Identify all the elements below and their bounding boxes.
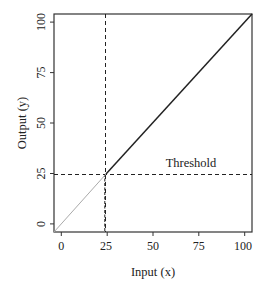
x-axis-ticks <box>61 232 244 236</box>
x-tick-label: 25 <box>100 239 112 253</box>
x-tick-label: 0 <box>58 239 64 253</box>
y-axis-label: Output (y) <box>15 97 29 149</box>
threshold-chart: 0 25 50 75 100 0 25 50 75 100 Input (x) … <box>0 0 266 285</box>
y-tick-label: 0 <box>34 221 48 227</box>
y-tick-label: 25 <box>34 168 48 180</box>
threshold-annotation: Threshold <box>166 156 217 170</box>
x-axis-label: Input (x) <box>131 265 175 279</box>
x-axis-tick-labels: 0 25 50 75 100 <box>58 239 252 253</box>
x-tick-label: 50 <box>147 239 159 253</box>
y-tick-label: 50 <box>34 117 48 129</box>
y-tick-label: 75 <box>34 67 48 79</box>
identity-line-below-threshold <box>54 174 106 232</box>
identity-line-above-threshold <box>106 14 252 174</box>
x-tick-label: 75 <box>193 239 205 253</box>
x-tick-label: 100 <box>234 239 252 253</box>
y-tick-label: 100 <box>34 13 48 31</box>
y-axis-tick-labels: 0 25 50 75 100 <box>34 13 48 227</box>
